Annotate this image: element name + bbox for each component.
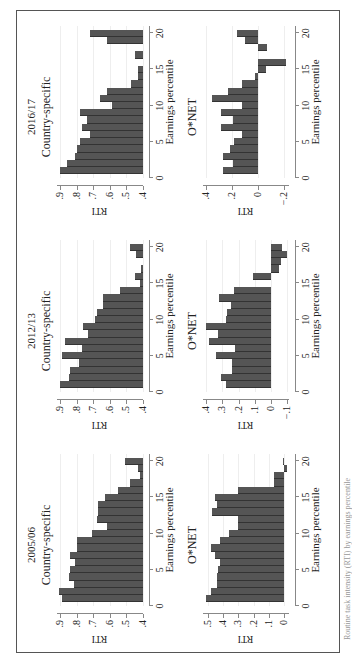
y-tick-label: .5 bbox=[120, 192, 131, 212]
bar bbox=[107, 37, 143, 44]
bar bbox=[140, 280, 143, 287]
y-tick bbox=[208, 614, 209, 618]
x-tick bbox=[149, 177, 153, 178]
y-tick-label: .4 bbox=[200, 406, 211, 426]
bar bbox=[242, 131, 258, 138]
y-tick-label: 0 bbox=[278, 620, 289, 640]
x-axis: 05101520 bbox=[149, 240, 150, 392]
y-tick-label: .2 bbox=[248, 620, 259, 640]
y-tick bbox=[93, 186, 94, 190]
bar bbox=[233, 116, 258, 123]
bar bbox=[212, 508, 284, 515]
y-tick bbox=[269, 614, 270, 618]
x-tick bbox=[295, 391, 299, 392]
bar bbox=[221, 109, 257, 116]
x-tick bbox=[149, 460, 153, 461]
y-tick bbox=[77, 186, 78, 190]
bar bbox=[233, 160, 258, 167]
bar bbox=[74, 581, 143, 588]
bar bbox=[120, 287, 143, 294]
bar bbox=[238, 487, 284, 494]
bar bbox=[228, 88, 258, 95]
panel-title: O*NET bbox=[185, 10, 200, 224]
bar bbox=[215, 552, 284, 559]
gridline bbox=[143, 454, 144, 606]
x-axis: 05101520 bbox=[149, 26, 150, 178]
bar bbox=[232, 359, 271, 366]
bar bbox=[231, 302, 272, 309]
y-tick-label: .7 bbox=[87, 406, 98, 426]
bar bbox=[138, 465, 143, 472]
y-tick-label: .3 bbox=[232, 620, 243, 640]
bar bbox=[131, 80, 143, 87]
bar bbox=[218, 330, 272, 337]
y-tick bbox=[284, 186, 285, 190]
y-tick bbox=[284, 614, 285, 618]
bar bbox=[77, 145, 143, 152]
y-tick bbox=[77, 614, 78, 618]
bar bbox=[80, 138, 143, 145]
bar bbox=[80, 109, 143, 116]
x-axis-title: Earnings percentile bbox=[163, 454, 175, 606]
y-tick-label: .5 bbox=[120, 406, 131, 426]
bar bbox=[82, 345, 143, 352]
x-tick bbox=[149, 391, 153, 392]
bar bbox=[258, 59, 287, 66]
y-tick bbox=[110, 614, 111, 618]
x-axis-title: Earnings percentile bbox=[309, 26, 321, 178]
bar bbox=[90, 131, 143, 138]
bar bbox=[221, 124, 257, 131]
x-tick bbox=[295, 319, 299, 320]
gridline bbox=[60, 454, 61, 606]
bar bbox=[69, 573, 143, 580]
gridline bbox=[143, 240, 144, 392]
bar bbox=[65, 338, 143, 345]
y-tick-label: −.1 bbox=[281, 406, 292, 426]
x-tick bbox=[295, 68, 299, 69]
plot-area bbox=[203, 26, 289, 178]
y-tick-label: .4 bbox=[217, 620, 228, 640]
x-tick bbox=[295, 533, 299, 534]
figure-caption: Routine task intensity (RTI) by earnings… bbox=[343, 340, 352, 640]
x-axis-title: Earnings percentile bbox=[163, 26, 175, 178]
bar bbox=[95, 316, 143, 323]
y-tick-label: .6 bbox=[104, 192, 115, 212]
bar bbox=[242, 80, 258, 87]
panel-title: O*NET bbox=[185, 224, 200, 438]
bar bbox=[98, 501, 143, 508]
y-tick-label: .2 bbox=[226, 192, 237, 212]
bar bbox=[258, 66, 266, 73]
bar bbox=[217, 501, 285, 508]
x-tick bbox=[295, 569, 299, 570]
gridline bbox=[208, 454, 209, 606]
gridline bbox=[206, 240, 207, 392]
onet-panel: O*NETRTI0.1.2.3.4.505101520Earnings perc… bbox=[185, 438, 335, 652]
plot-area bbox=[57, 454, 143, 606]
bar bbox=[141, 265, 143, 272]
bar bbox=[226, 381, 271, 388]
y-tick bbox=[206, 400, 207, 404]
country-specific-panel: Country-specificRTI.4.5.6.7.8.905101520E… bbox=[39, 224, 189, 438]
x-tick bbox=[149, 282, 153, 283]
figure-frame: 2005/06Country-specificRTI.4.5.6.7.8.905… bbox=[16, 10, 340, 653]
country-specific-panel: Country-specificRTI.4.5.6.7.8.905101520E… bbox=[39, 10, 189, 224]
gridline bbox=[222, 240, 223, 392]
gridline bbox=[284, 26, 285, 178]
y-tick bbox=[238, 614, 239, 618]
bar bbox=[271, 244, 282, 251]
bar bbox=[238, 516, 284, 523]
gridline bbox=[206, 26, 207, 178]
x-axis: 05101520 bbox=[295, 26, 296, 178]
bar bbox=[92, 530, 143, 537]
x-axis-title: Earnings percentile bbox=[163, 240, 175, 392]
bar bbox=[62, 595, 143, 602]
x-tick bbox=[295, 355, 299, 356]
x-tick bbox=[149, 533, 153, 534]
y-axis: −.10.1.2.3.4 bbox=[203, 399, 289, 400]
panel-title: Country-specific bbox=[39, 224, 54, 438]
bar bbox=[130, 244, 143, 251]
year-column: 2016/17Country-specificRTI.4.5.6.7.8.905… bbox=[17, 10, 339, 224]
y-axis: .4.5.6.7.8.9 bbox=[57, 399, 143, 400]
bar bbox=[83, 323, 143, 330]
bar bbox=[234, 138, 257, 145]
